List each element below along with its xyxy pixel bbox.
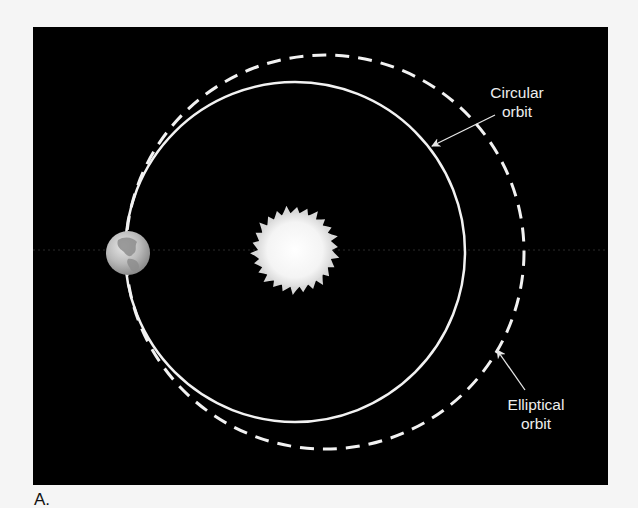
circular-orbit-label-line1: Circular <box>490 84 543 101</box>
panel-label: A. <box>34 490 50 508</box>
elliptical-orbit-label-line1: Elliptical <box>508 396 565 413</box>
sun-disk <box>258 213 332 287</box>
orbit-diagram: Circular orbit Elliptical orbit <box>0 0 638 508</box>
circular-orbit-label-line2: orbit <box>502 103 533 120</box>
earth-icon <box>106 231 150 275</box>
elliptical-orbit-label-line2: orbit <box>521 415 552 432</box>
